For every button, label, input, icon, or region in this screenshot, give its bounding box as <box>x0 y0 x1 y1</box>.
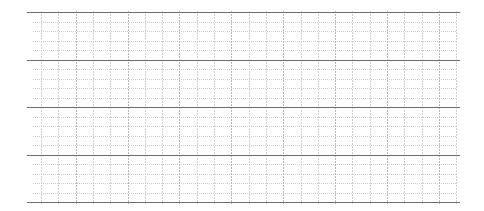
ruled-grid <box>0 0 484 211</box>
